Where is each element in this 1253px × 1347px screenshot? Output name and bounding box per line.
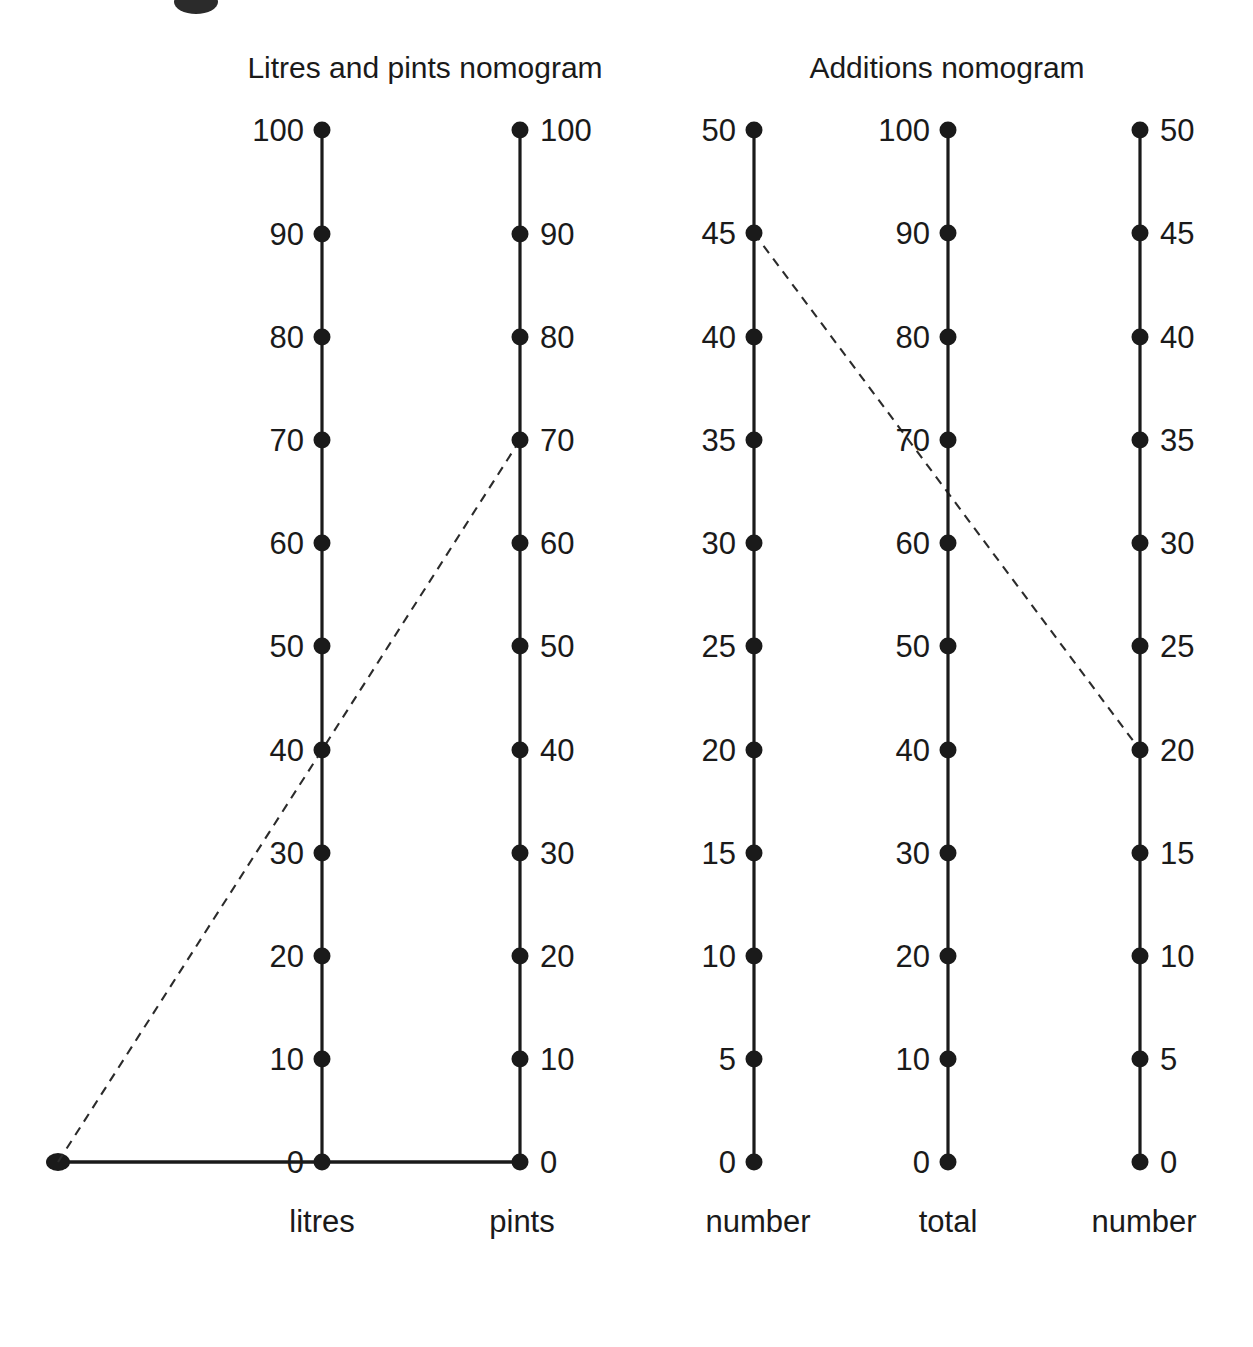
tick-label: 30 [540, 836, 574, 871]
tick-label: 45 [1160, 216, 1194, 251]
tick-dot [512, 329, 529, 346]
tick-label: 40 [702, 320, 736, 355]
tick-label: 35 [702, 423, 736, 458]
tick-label: 50 [540, 629, 574, 664]
tick-dot [314, 1051, 331, 1068]
tick-dot [512, 1051, 529, 1068]
tick-dot [512, 948, 529, 965]
axis-labels-number-left: 0 5 10 15 20 25 30 35 40 45 50 [702, 113, 736, 1180]
tick-label: 50 [896, 629, 930, 664]
tick-label: 40 [540, 733, 574, 768]
tick-label: 20 [1160, 733, 1194, 768]
tick-dot [314, 845, 331, 862]
tick-dot [746, 1051, 763, 1068]
nomogram-canvas: Litres and pints nomogram [0, 0, 1253, 1347]
tick-dot [314, 535, 331, 552]
axis-name-pints: pints [489, 1204, 554, 1239]
tick-label: 50 [270, 629, 304, 664]
tick-label: 40 [270, 733, 304, 768]
tick-dot [940, 1051, 957, 1068]
tick-label: 80 [896, 320, 930, 355]
tick-dot [1132, 535, 1149, 552]
axis-pints: 0 10 20 30 40 50 60 70 80 90 100 pints [489, 113, 591, 1240]
tick-dot [512, 122, 529, 139]
tick-label: 20 [896, 939, 930, 974]
tick-dot [512, 742, 529, 759]
tick-label: 10 [270, 1042, 304, 1077]
tick-dot [314, 226, 331, 243]
tick-label: 10 [702, 939, 736, 974]
tick-label: 35 [1160, 423, 1194, 458]
tick-label: 45 [702, 216, 736, 251]
tick-label: 70 [270, 423, 304, 458]
tick-dot [1132, 638, 1149, 655]
tick-dot [1132, 948, 1149, 965]
tick-dot [1132, 329, 1149, 346]
tick-label: 90 [270, 217, 304, 252]
nomogram-figure: Litres and pints nomogram [0, 0, 1253, 1347]
tick-dot [746, 1154, 763, 1171]
tick-dot [512, 638, 529, 655]
tick-label: 30 [896, 836, 930, 871]
tick-label: 0 [287, 1145, 304, 1180]
tick-label: 70 [540, 423, 574, 458]
tick-dot [512, 1154, 529, 1171]
tick-label: 0 [913, 1145, 930, 1180]
tick-dot [940, 225, 957, 242]
tick-dot [940, 329, 957, 346]
axis-labels-pints: 0 10 20 30 40 50 60 70 80 90 100 [540, 113, 592, 1180]
tick-label: 10 [1160, 939, 1194, 974]
tick-label: 10 [540, 1042, 574, 1077]
tick-dot [746, 329, 763, 346]
tick-dot [746, 122, 763, 139]
tick-label: 100 [878, 113, 930, 148]
cropped-figure-glyph [174, 0, 218, 14]
tick-dot [314, 432, 331, 449]
axis-name-total: total [919, 1204, 978, 1239]
axis-name-number-left: number [705, 1204, 810, 1239]
tick-label: 90 [896, 216, 930, 251]
tick-label: 80 [540, 320, 574, 355]
tick-label: 30 [702, 526, 736, 561]
axis-total: 0 10 20 30 40 50 60 70 80 90 100 total [878, 113, 977, 1240]
tick-label: 80 [270, 320, 304, 355]
axis-labels-total: 0 10 20 30 40 50 60 70 80 90 100 [878, 113, 930, 1180]
tick-label: 50 [1160, 113, 1194, 148]
panel-additions: Additions nomogram [702, 51, 1197, 1239]
axis-number-right: 0 5 10 15 20 25 30 35 40 45 50 number [1091, 113, 1196, 1240]
panel-litres-pints: Litres and pints nomogram [46, 51, 603, 1239]
tick-dot [1132, 432, 1149, 449]
axis-number-left: 0 5 10 15 20 25 30 35 40 45 50 number [702, 113, 811, 1240]
tick-dot [940, 742, 957, 759]
tick-label: 90 [540, 217, 574, 252]
tick-label: 15 [1160, 836, 1194, 871]
axis-labels-number-right: 0 5 10 15 20 25 30 35 40 45 50 [1160, 113, 1194, 1180]
tick-label: 30 [1160, 526, 1194, 561]
tick-label: 50 [702, 113, 736, 148]
tick-label: 60 [896, 526, 930, 561]
tick-dot [314, 122, 331, 139]
tick-dot [940, 1154, 957, 1171]
tick-dot [940, 432, 957, 449]
tick-label: 70 [896, 423, 930, 458]
tick-label: 15 [702, 836, 736, 871]
tick-label: 25 [1160, 629, 1194, 664]
tick-dot [746, 845, 763, 862]
tick-label: 30 [270, 836, 304, 871]
tick-dot [314, 638, 331, 655]
tick-dot [512, 226, 529, 243]
axis-labels-litres: 0 10 20 30 40 50 60 70 80 90 100 [252, 113, 304, 1180]
tick-label: 20 [702, 733, 736, 768]
tick-dot [1132, 122, 1149, 139]
tick-dot [512, 535, 529, 552]
tick-dot [1132, 742, 1149, 759]
panel-title-additions: Additions nomogram [809, 51, 1084, 84]
tick-label: 0 [1160, 1145, 1177, 1180]
tick-dot [746, 225, 763, 242]
tick-label: 40 [896, 733, 930, 768]
tick-dot [512, 845, 529, 862]
tick-dot [746, 638, 763, 655]
tick-dot [314, 742, 331, 759]
tick-label: 20 [540, 939, 574, 974]
axis-name-number-right: number [1091, 1204, 1196, 1239]
